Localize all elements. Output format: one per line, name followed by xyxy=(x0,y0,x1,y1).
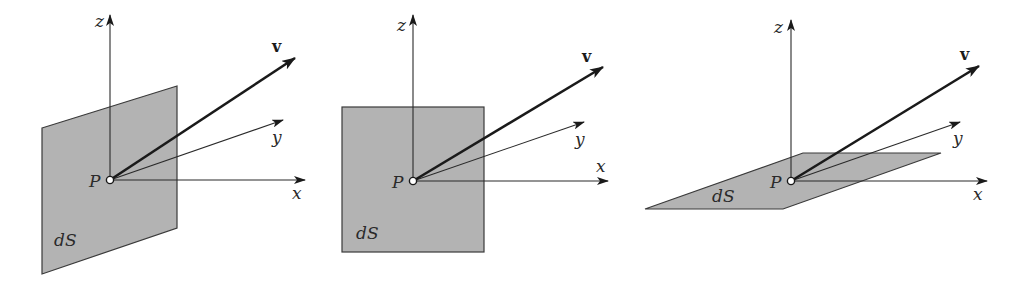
surface-ds-label: dS xyxy=(712,186,735,206)
panel-1: z v y x P dS xyxy=(42,11,305,274)
y-axis-label: y xyxy=(952,128,963,148)
vector-v-label: v xyxy=(271,37,282,56)
x-axis-label: x xyxy=(292,183,302,203)
point-p-label: P xyxy=(769,172,782,192)
z-axis-label: z xyxy=(396,15,407,35)
x-axis-label: x xyxy=(973,184,983,204)
z-axis-label: z xyxy=(94,11,105,31)
panel-3: z v y x P dS xyxy=(645,17,987,209)
z-axis-label: z xyxy=(773,17,784,37)
surface-ds-label: dS xyxy=(54,230,77,250)
x-axis-label: x xyxy=(596,156,606,176)
point-p xyxy=(409,177,416,184)
vector-v-label: v xyxy=(959,45,970,64)
panel-2: z v y x P dS xyxy=(342,15,608,252)
y-axis-label: y xyxy=(271,127,282,147)
point-p xyxy=(787,177,794,184)
vector-v-label: v xyxy=(581,47,592,66)
point-p xyxy=(106,176,113,183)
y-axis-label: y xyxy=(574,129,585,149)
surface-element-diagram: z v y x P dS z v y x P dS z v y x P dS xyxy=(0,0,1030,281)
surface-ds-label: dS xyxy=(356,223,379,243)
point-p-label: P xyxy=(391,172,404,192)
point-p-label: P xyxy=(88,171,101,191)
